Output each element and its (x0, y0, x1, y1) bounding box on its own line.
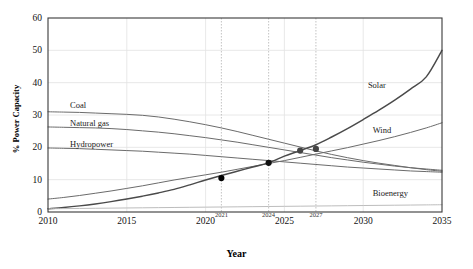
series-label-natural-gas: Natural gas (70, 118, 109, 128)
chart-figure: 0102030405060 201020152020202520302035 2… (0, 0, 473, 269)
x-tick-label: 2015 (117, 216, 136, 226)
y-tick-label: 50 (12, 45, 42, 55)
y-tick-label: 60 (12, 13, 42, 23)
x-tick-label: 2010 (39, 216, 58, 226)
series-label-bioenergy: Bioenergy (373, 188, 408, 198)
x-annotation-tick-label: 2027 (309, 211, 322, 218)
x-axis-title: Year (0, 248, 473, 259)
gridlines-group (48, 18, 442, 212)
series-label-wind: Wind (373, 125, 392, 135)
y-axis-title: % Power Capacity (11, 59, 21, 179)
x-tick-label: 2020 (196, 216, 215, 226)
x-tick-label: 2025 (275, 216, 294, 226)
x-annotation-tick-label: 2021 (215, 211, 228, 218)
x-tick-label: 2030 (354, 216, 373, 226)
series-label-solar: Solar (368, 80, 386, 90)
series-label-coal: Coal (70, 100, 86, 110)
series-label-hydropower: Hydropower (70, 139, 113, 149)
y-tick-label: 0 (12, 207, 42, 217)
data-point-marker[interactable] (313, 146, 319, 152)
series-line-bioenergy (48, 205, 442, 209)
x-annotation-tick-label: 2024 (262, 211, 275, 218)
x-tick-label: 2035 (433, 216, 452, 226)
data-point-marker[interactable] (218, 175, 224, 181)
chart-plot-area (0, 0, 473, 269)
data-point-marker[interactable] (266, 160, 272, 166)
data-point-marker[interactable] (297, 147, 303, 153)
